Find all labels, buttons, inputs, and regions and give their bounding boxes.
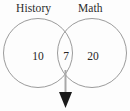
set-label-history: History bbox=[16, 3, 51, 15]
set-label-math: Math bbox=[78, 3, 103, 15]
arrow-head-icon bbox=[59, 92, 72, 108]
count-math-only: 20 bbox=[83, 51, 103, 63]
count-intersection: 7 bbox=[58, 51, 74, 63]
venn-diagram-figure: History Math 10 7 20 bbox=[0, 0, 130, 111]
count-history-only: 10 bbox=[28, 51, 48, 63]
